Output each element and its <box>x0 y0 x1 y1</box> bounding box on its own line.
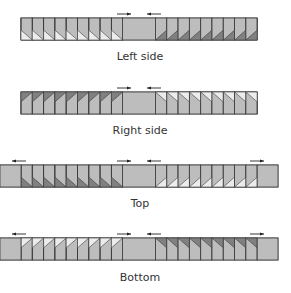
arrow-right-icon <box>250 232 264 235</box>
arrow-right-icon <box>117 12 131 15</box>
label-left-side: Left side <box>80 50 200 63</box>
arrow-left-icon <box>147 86 161 89</box>
label-top: Top <box>80 197 200 210</box>
diagram-canvas <box>0 0 291 293</box>
label-right-side: Right side <box>80 124 200 137</box>
strip-left-side <box>21 12 257 40</box>
arrow-left-icon <box>12 159 26 162</box>
arrow-right-icon <box>117 86 131 89</box>
arrow-left-icon <box>12 232 26 235</box>
strip-right-side <box>21 86 257 114</box>
strip-bottom <box>0 232 278 260</box>
strip-top <box>0 159 278 187</box>
arrow-right-icon <box>250 159 264 162</box>
label-bottom: Bottom <box>80 271 200 284</box>
arrow-right-icon <box>117 159 131 162</box>
arrow-left-icon <box>147 12 161 15</box>
arrow-left-icon <box>147 159 161 162</box>
arrow-right-icon <box>117 232 131 235</box>
arrow-left-icon <box>147 232 161 235</box>
